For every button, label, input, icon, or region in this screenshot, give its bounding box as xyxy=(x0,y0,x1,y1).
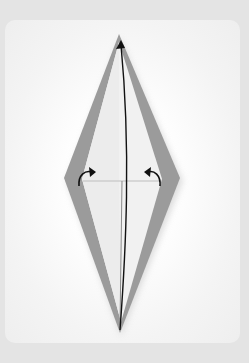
origami-diagram xyxy=(0,0,249,363)
